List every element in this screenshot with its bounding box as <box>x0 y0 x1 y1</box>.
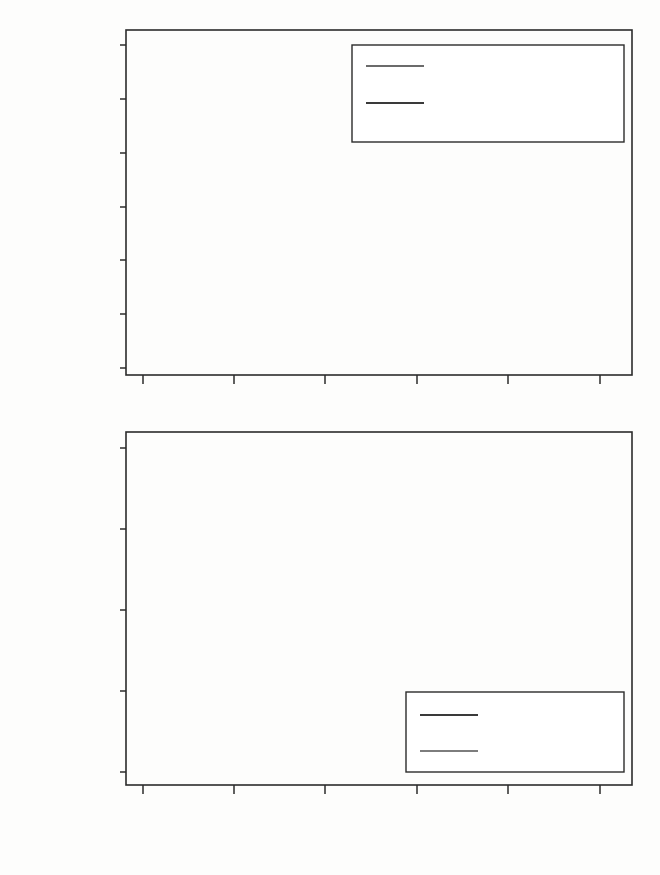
top-x-tickmarks <box>143 375 600 384</box>
bottom-panel-svg <box>0 420 660 875</box>
bottom-x-tickmarks <box>143 785 600 794</box>
bottom-y-tickmarks <box>120 448 126 772</box>
top-y-tickmarks <box>120 45 126 368</box>
top-legend <box>352 45 624 142</box>
figure-container <box>0 0 660 875</box>
bottom-legend <box>0 420 624 772</box>
bottom-legend-box <box>406 692 624 772</box>
top-panel <box>0 0 660 420</box>
top-panel-svg <box>0 0 660 420</box>
top-legend-box <box>352 45 624 142</box>
bottom-panel <box>0 420 660 875</box>
